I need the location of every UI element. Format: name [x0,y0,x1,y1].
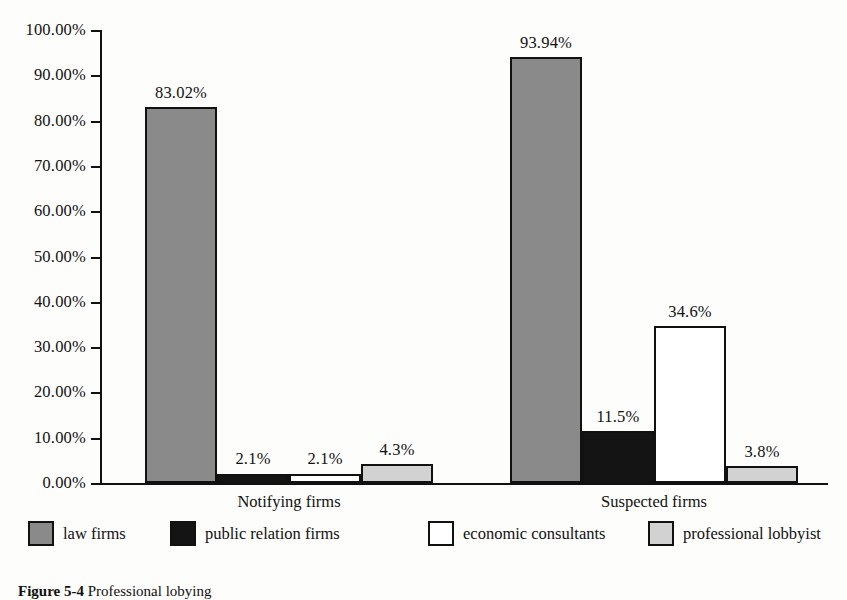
y-axis-tick-label: 50.00% [34,247,86,267]
figure-caption: Figure 5-4 Professional lobying [18,583,211,600]
y-axis-tick [91,30,101,32]
category-label: Suspected firms [601,492,707,512]
y-axis-tick-label: 10.00% [34,428,86,448]
legend-label: public relation firms [205,524,340,544]
y-axis-tick [91,483,101,485]
legend-item: law firms [28,521,126,546]
y-axis-tick [91,257,101,259]
bar-pr [582,431,654,483]
legend-swatch-icon [428,521,454,546]
y-axis-tick-label: 20.00% [34,382,86,402]
legend-item: economic consultants [428,521,606,546]
x-axis-line [100,483,828,485]
bar-econ [289,474,361,484]
legend-item: public relation firms [170,521,340,546]
bar-value-label: 93.94% [520,33,572,53]
y-axis-tick [91,166,101,168]
bar-law [510,57,582,483]
bar-value-label: 3.8% [744,442,779,462]
y-axis-tick-label: 100.00% [25,20,86,40]
legend-swatch-icon [648,521,674,546]
bar-value-label: 83.02% [155,83,207,103]
y-axis-tick [91,75,101,77]
legend-label: law firms [63,524,126,544]
legend-label: economic consultants [463,524,606,544]
bar-value-label: 2.1% [235,449,270,469]
y-axis-tick [91,438,101,440]
y-axis-tick-label: 60.00% [34,201,86,221]
bar-value-label: 2.1% [307,449,342,469]
legend-swatch-icon [170,521,196,546]
y-axis-tick-label: 70.00% [34,156,86,176]
bar-law [145,107,217,483]
figure-caption-text: Professional lobying [88,583,212,599]
y-axis-tick-label: 0.00% [42,473,86,493]
y-axis-tick-label: 30.00% [34,337,86,357]
y-axis-tick [91,121,101,123]
y-axis-tick [91,211,101,213]
y-axis-tick-label: 90.00% [34,65,86,85]
y-axis-tick [91,302,101,304]
plot-area: 100.00%90.00%80.00%70.00%60.00%50.00%40.… [100,30,828,483]
bar-value-label: 4.3% [379,440,414,460]
y-axis-tick [91,392,101,394]
bar-value-label: 34.6% [668,302,712,322]
y-axis-tick [91,347,101,349]
category-label: Notifying firms [237,492,340,512]
bar-econ [654,326,726,483]
figure-caption-label: Figure 5-4 [18,583,84,599]
legend-label: professional lobbyist [683,524,821,544]
bar-lobby [726,466,798,483]
y-axis-tick-label: 40.00% [34,292,86,312]
legend-item: professional lobbyist [648,521,821,546]
bar-pr [217,474,289,484]
bar-value-label: 11.5% [596,407,639,427]
bar-lobby [361,464,433,483]
chart-legend: law firmspublic relation firmseconomic c… [0,521,847,555]
y-axis-tick-label: 80.00% [34,111,86,131]
legend-swatch-icon [28,521,54,546]
